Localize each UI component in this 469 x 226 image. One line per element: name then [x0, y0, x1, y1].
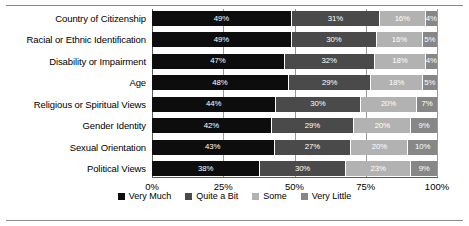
- bar-segment-value: 9%: [419, 165, 430, 173]
- bar-segment-value: 30%: [326, 36, 341, 44]
- bar-segment: 44%: [152, 97, 276, 112]
- chart-legend: Very MuchQuite a BitSomeVery Little: [0, 192, 469, 201]
- stacked-bar: 48%29%18%5%: [152, 75, 437, 90]
- bar-segment-value: 27%: [305, 143, 320, 151]
- figure-top-rule: [6, 5, 463, 6]
- bar-segment: 32%: [285, 54, 375, 69]
- stacked-bar-chart-figure: Country of Citizenship49%31%16%4%Racial …: [0, 0, 469, 226]
- stacked-bar: 47%32%18%4%: [152, 54, 437, 69]
- bar-row: Gender Identity42%29%20%9%: [0, 118, 469, 133]
- category-label: Racial or Ethnic Identification: [0, 32, 152, 47]
- bar-segment-value: 29%: [305, 122, 320, 130]
- bar-segment-value: 49%: [214, 36, 229, 44]
- bar-segment-value: 10%: [415, 143, 430, 151]
- legend-swatch-icon: [252, 193, 259, 200]
- bar-row: Country of Citizenship49%31%16%4%: [0, 11, 469, 26]
- bar-segment-value: 20%: [372, 143, 387, 151]
- stacked-bar: 38%30%23%9%: [152, 161, 437, 176]
- category-label: Gender Identity: [0, 118, 152, 133]
- bar-segment-value: 42%: [204, 122, 219, 130]
- stacked-bar: 43%27%20%10%: [152, 140, 437, 155]
- bar-segment: 18%: [371, 75, 422, 90]
- bar-segment-value: 23%: [370, 165, 385, 173]
- category-label: Disability or Impairment: [0, 54, 152, 69]
- legend-label: Quite a Bit: [196, 192, 238, 201]
- bar-segment: 9%: [411, 118, 437, 133]
- stacked-bar: 49%30%16%5%: [152, 32, 437, 47]
- legend-item[interactable]: Quite a Bit: [185, 192, 238, 201]
- bar-segment-value: 49%: [214, 15, 229, 23]
- bar-segment-value: 4%: [426, 57, 437, 65]
- bar-segment-value: 38%: [198, 165, 213, 173]
- bar-segment: 20%: [361, 97, 417, 112]
- bar-row: Disability or Impairment47%32%18%4%: [0, 54, 469, 69]
- bar-segment-value: 16%: [395, 15, 410, 23]
- legend-swatch-icon: [118, 193, 125, 200]
- bar-segment-value: 9%: [419, 122, 430, 130]
- bar-segment: 5%: [423, 75, 437, 90]
- bar-segment-value: 4%: [426, 15, 437, 23]
- bar-segment-value: 47%: [210, 57, 225, 65]
- bar-segment: 7%: [417, 97, 437, 112]
- stacked-bar: 49%31%16%4%: [152, 11, 437, 26]
- bar-segment: 30%: [260, 161, 346, 176]
- bar-segment: 29%: [272, 118, 355, 133]
- bar-segment: 10%: [408, 140, 437, 155]
- bar-row: Sexual Orientation43%27%20%10%: [0, 140, 469, 155]
- bar-segment-value: 30%: [295, 165, 310, 173]
- category-label: Political Views: [0, 161, 152, 176]
- bar-segment: 20%: [354, 118, 411, 133]
- legend-label: Very Much: [129, 192, 172, 201]
- bar-segment-value: 5%: [424, 36, 435, 44]
- bar-segment-value: 48%: [212, 79, 227, 87]
- bar-segment: 5%: [423, 32, 437, 47]
- bar-segment: 30%: [276, 97, 361, 112]
- category-label: Country of Citizenship: [0, 11, 152, 26]
- bar-row: Racial or Ethnic Identification49%30%16%…: [0, 32, 469, 47]
- bar-segment-value: 43%: [205, 143, 220, 151]
- bar-segment: 31%: [292, 11, 380, 26]
- bar-segment-value: 18%: [389, 79, 404, 87]
- bar-segment: 30%: [292, 32, 378, 47]
- bar-segment: 48%: [152, 75, 289, 90]
- bar-segment: 43%: [152, 140, 275, 155]
- stacked-bar: 42%29%20%9%: [152, 118, 437, 133]
- bar-segment: 49%: [152, 11, 292, 26]
- bar-segment: 9%: [411, 161, 437, 176]
- bar-segment-value: 7%: [422, 100, 433, 108]
- legend-item[interactable]: Very Much: [118, 192, 172, 201]
- figure-bottom-rule: [6, 220, 463, 221]
- bar-segment: 23%: [346, 161, 412, 176]
- bar-segment-value: 29%: [322, 79, 337, 87]
- bar-segment: 29%: [289, 75, 372, 90]
- legend-swatch-icon: [301, 193, 308, 200]
- bar-segment-value: 30%: [310, 100, 325, 108]
- bar-segment-value: 32%: [322, 57, 337, 65]
- legend-item[interactable]: Very Little: [301, 192, 352, 201]
- bar-segment: 20%: [351, 140, 408, 155]
- bar-segment: 47%: [152, 54, 285, 69]
- legend-swatch-icon: [185, 193, 192, 200]
- bar-row: Religious or Spiritual Views44%30%20%7%: [0, 97, 469, 112]
- x-axis-line: [152, 177, 438, 178]
- bar-rows: Country of Citizenship49%31%16%4%Racial …: [0, 9, 469, 177]
- bar-segment-value: 31%: [328, 15, 343, 23]
- category-label: Age: [0, 75, 152, 90]
- bar-segment-value: 20%: [375, 122, 390, 130]
- bar-row: Age48%29%18%5%: [0, 75, 469, 90]
- legend-label: Very Little: [312, 192, 352, 201]
- bar-segment-value: 44%: [206, 100, 221, 108]
- legend-label: Some: [263, 192, 287, 201]
- bar-segment-value: 18%: [392, 57, 407, 65]
- bar-segment: 4%: [426, 54, 437, 69]
- plot-area: Country of Citizenship49%31%16%4%Racial …: [0, 9, 469, 181]
- bar-segment-value: 16%: [392, 36, 407, 44]
- stacked-bar: 44%30%20%7%: [152, 97, 437, 112]
- category-label: Religious or Spiritual Views: [0, 97, 152, 112]
- bar-segment: 49%: [152, 32, 292, 47]
- bar-segment: 18%: [375, 54, 426, 69]
- bar-segment: 42%: [152, 118, 272, 133]
- bar-segment: 16%: [380, 11, 426, 26]
- bar-segment-value: 5%: [424, 79, 435, 87]
- legend-item[interactable]: Some: [252, 192, 287, 201]
